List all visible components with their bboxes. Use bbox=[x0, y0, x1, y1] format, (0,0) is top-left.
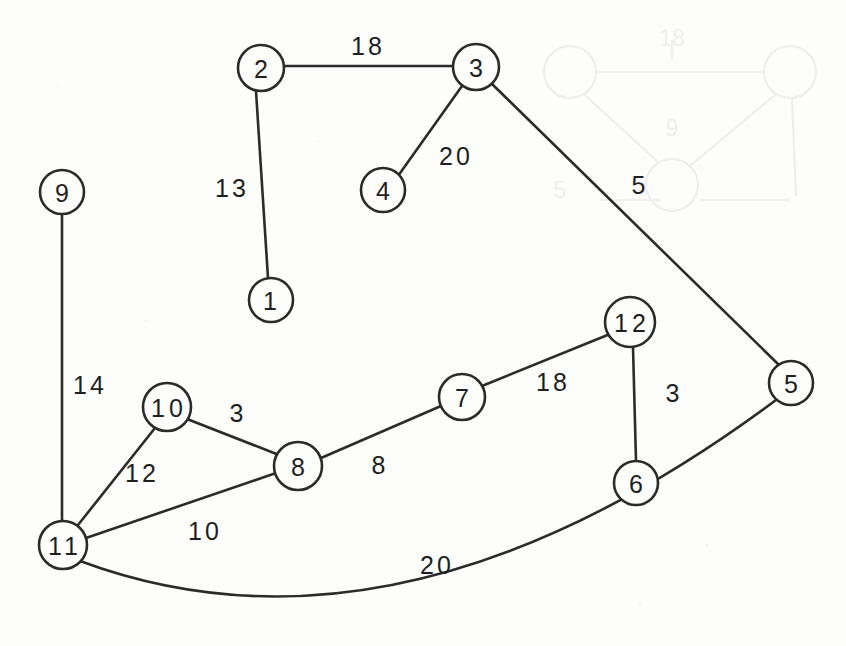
node-6[interactable]: 6 bbox=[614, 461, 658, 505]
edge-label-10-8: 3 bbox=[230, 399, 247, 427]
node-11[interactable]: 11 bbox=[39, 521, 87, 569]
node-12[interactable]: 12 bbox=[605, 297, 655, 347]
node-4[interactable]: 4 bbox=[361, 168, 405, 212]
ghost-node-b bbox=[764, 46, 816, 98]
edge-label-2-1: 13 bbox=[215, 174, 249, 202]
node-8-label: 8 bbox=[291, 453, 307, 481]
ghost-edge-bc bbox=[690, 95, 775, 166]
edge-label-12-6: 3 bbox=[666, 379, 683, 407]
node-10-label: 10 bbox=[151, 394, 187, 422]
node-10[interactable]: 10 bbox=[143, 383, 191, 431]
ghost-bleedthrough-layer: 18 9 5 bbox=[544, 25, 816, 211]
ghost-label-0: 18 bbox=[659, 25, 685, 51]
edge-label-7-12: 18 bbox=[536, 368, 570, 396]
edge-label-11-5: 20 bbox=[420, 551, 454, 579]
node-3-label: 3 bbox=[469, 54, 485, 82]
node-5[interactable]: 5 bbox=[769, 361, 813, 405]
ghost-node-c bbox=[646, 159, 698, 211]
node-11-label: 11 bbox=[48, 532, 82, 560]
graph-figure: 18 9 5 bbox=[0, 0, 846, 646]
ghost-edge-ac bbox=[585, 95, 658, 162]
edge-label-3-4: 20 bbox=[439, 142, 473, 170]
edge-label-8-7: 8 bbox=[372, 451, 389, 479]
edge-11-8[interactable] bbox=[86, 473, 276, 538]
edge-label-3-5: 5 bbox=[632, 171, 649, 199]
node-12-label: 12 bbox=[614, 309, 650, 337]
edge-label-9-11: 14 bbox=[73, 371, 107, 399]
edge-12-6[interactable] bbox=[633, 347, 636, 461]
edge-label-10-11: 12 bbox=[125, 459, 159, 487]
ghost-label-2: 5 bbox=[554, 177, 567, 203]
node-9-label: 9 bbox=[55, 179, 71, 207]
node-7[interactable]: 7 bbox=[439, 374, 485, 420]
edge-label-11-8: 10 bbox=[188, 517, 222, 545]
node-1-label: 1 bbox=[263, 287, 279, 315]
node-4-label: 4 bbox=[376, 177, 392, 205]
edges-group bbox=[62, 66, 778, 596]
ghost-node-a bbox=[544, 46, 596, 98]
node-1[interactable]: 1 bbox=[249, 278, 293, 322]
ghost-edge-b-down bbox=[792, 98, 796, 196]
nodes-group: 1 2 3 4 5 6 7 bbox=[39, 44, 813, 569]
edge-label-2-3: 18 bbox=[351, 32, 385, 60]
node-8[interactable]: 8 bbox=[274, 442, 322, 490]
node-7-label: 7 bbox=[455, 384, 471, 412]
node-9[interactable]: 9 bbox=[40, 170, 84, 214]
edge-labels-group: 18 13 20 5 14 3 12 10 8 18 3 20 bbox=[73, 32, 682, 579]
node-3[interactable]: 3 bbox=[453, 44, 499, 90]
node-5-label: 5 bbox=[784, 370, 800, 398]
paper-texture bbox=[57, 85, 708, 604]
node-2[interactable]: 2 bbox=[238, 45, 284, 91]
node-2-label: 2 bbox=[254, 55, 270, 83]
edge-2-1[interactable] bbox=[256, 91, 268, 278]
node-6-label: 6 bbox=[629, 470, 645, 498]
graph-canvas: 18 9 5 bbox=[0, 0, 846, 646]
ghost-label-1: 9 bbox=[666, 115, 679, 141]
